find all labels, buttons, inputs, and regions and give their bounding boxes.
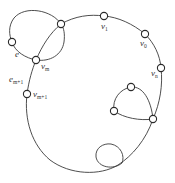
node-inner-top[interactable] bbox=[127, 83, 134, 90]
label-v1: v1 bbox=[101, 21, 108, 32]
label-vn: vn bbox=[151, 68, 158, 79]
node-inner-right[interactable] bbox=[149, 115, 156, 122]
label-vm1: vm+1 bbox=[33, 89, 47, 100]
e-loop-edge bbox=[10, 10, 61, 42]
label-v0: v0 bbox=[140, 38, 147, 49]
node-top-left[interactable] bbox=[57, 20, 64, 27]
node-vm[interactable] bbox=[32, 56, 39, 63]
node-inner-left[interactable] bbox=[110, 107, 117, 114]
node-v1[interactable] bbox=[100, 12, 107, 19]
label-em1: em+1 bbox=[9, 74, 23, 85]
self-loop-edge bbox=[96, 144, 123, 167]
node-v0[interactable] bbox=[141, 30, 148, 37]
graph-diagram: e vm em+1 vm+1 v1 v0 vn bbox=[0, 0, 175, 183]
node-left[interactable] bbox=[8, 38, 15, 45]
inner-cycle-edge-bottom bbox=[114, 111, 153, 120]
label-vm: vm bbox=[41, 61, 50, 72]
vm-topleft-lens-edge bbox=[36, 24, 64, 60]
label-e: e bbox=[15, 49, 19, 59]
node-vn[interactable] bbox=[157, 64, 164, 71]
node-vm1[interactable] bbox=[23, 90, 30, 97]
